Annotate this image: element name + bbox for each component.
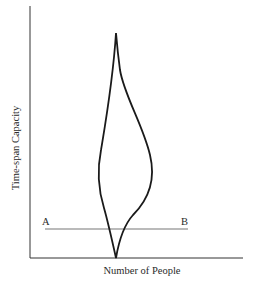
line-label-a: A xyxy=(42,216,50,227)
y-axis-label: Time-span Capacity xyxy=(10,106,21,190)
x-axis-label: Number of People xyxy=(104,265,181,276)
line-label-b: B xyxy=(181,216,188,227)
distribution-curve xyxy=(99,33,152,258)
diagram-canvas xyxy=(0,0,256,281)
